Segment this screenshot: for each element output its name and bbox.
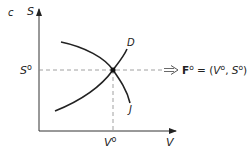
curve-j	[61, 42, 130, 103]
curve-d-label: D	[127, 37, 135, 48]
curve-d	[55, 49, 127, 111]
y-axis-label: S	[27, 5, 34, 18]
panel-label: c	[8, 7, 14, 18]
equilibrium-equation: Fo = (Vo, So)	[182, 63, 247, 76]
implies-arrow-icon	[164, 66, 178, 75]
curve-j-label: J	[127, 104, 132, 115]
equilibrium-point	[110, 67, 115, 72]
equilibrium-diagram: c S V D J So Vo	[0, 0, 251, 157]
x-axis-label: V	[166, 136, 175, 149]
v0-label: Vo	[104, 135, 117, 149]
s0-label: So	[20, 63, 32, 77]
